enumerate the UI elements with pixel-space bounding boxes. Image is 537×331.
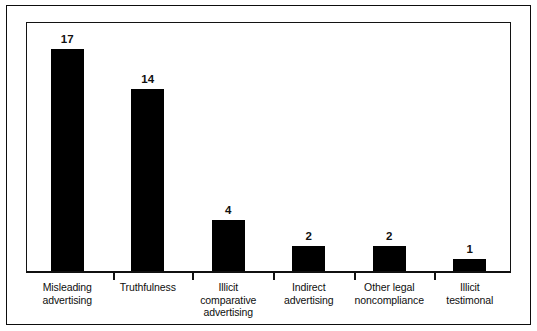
- bar-rect: [131, 89, 164, 272]
- label-line-1: Misleading: [43, 281, 92, 293]
- bar-group-illicit-comparative-advertising: 4: [188, 23, 269, 272]
- label-line-2: noncompliance: [350, 294, 429, 307]
- bar-rect: [373, 246, 406, 272]
- x-axis-tick: [434, 273, 436, 280]
- x-axis-label-misleading-advertising: Misleading advertising: [27, 281, 108, 317]
- plot-area: 17 14 4 2 2 1: [27, 23, 510, 272]
- x-axis-label-indirect-advertising: Indirect advertising: [269, 281, 350, 317]
- x-axis-label-truthfulness: Truthfulness: [108, 281, 189, 317]
- bar-rect: [51, 49, 84, 272]
- label-line-2: testimonal: [431, 294, 510, 307]
- x-axis-tick: [273, 273, 275, 280]
- bar-group-indirect-advertising: 2: [269, 23, 350, 272]
- bar-group-other-legal-noncompliance: 2: [349, 23, 430, 272]
- x-axis-category-labels: Misleading advertising Truthfulness Illi…: [27, 281, 510, 317]
- label-line-2: advertising: [270, 294, 349, 307]
- bar-value-label: 2: [349, 231, 430, 243]
- label-line-1: Truthfulness: [120, 281, 176, 293]
- bar-value-label: 4: [188, 205, 269, 217]
- bar-rect: [212, 220, 245, 272]
- bar-value-label: 2: [269, 231, 350, 243]
- bar-value-label: 17: [27, 34, 108, 46]
- bar-group-misleading-advertising: 17: [27, 23, 108, 272]
- label-line-1: Other legal: [364, 281, 414, 293]
- bar-series: 17 14 4 2 2 1: [27, 23, 510, 272]
- x-axis-label-illicit-testimonal: Illicit testimonal: [430, 281, 511, 317]
- bar-group-truthfulness: 14: [108, 23, 189, 272]
- label-line-1: Illicit comparative: [200, 281, 256, 306]
- bar-value-label: 1: [430, 244, 511, 256]
- bar-chart-figure: 17 14 4 2 2 1: [0, 0, 537, 331]
- x-axis-tick: [192, 273, 194, 280]
- label-line-2: advertising: [189, 306, 268, 319]
- bar-value-label: 14: [108, 74, 189, 86]
- x-axis-line: [26, 271, 511, 273]
- bar-rect: [292, 246, 325, 272]
- bar-group-illicit-testimonal: 1: [430, 23, 511, 272]
- x-axis-label-illicit-comparative-advertising: Illicit comparative advertising: [188, 281, 269, 317]
- label-line-1: Indirect: [292, 281, 326, 293]
- x-axis-tick: [113, 273, 115, 280]
- x-axis-tick: [354, 273, 356, 280]
- x-axis-label-other-legal-noncompliance: Other legal noncompliance: [349, 281, 430, 317]
- label-line-1: Illicit: [460, 281, 480, 293]
- label-line-2: advertising: [28, 294, 107, 307]
